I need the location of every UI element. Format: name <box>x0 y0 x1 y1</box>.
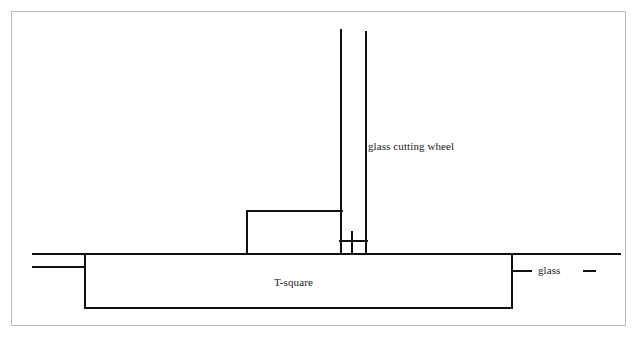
figure-border <box>12 12 626 326</box>
glass-cutting-diagram: glass cutting wheel T-square glass <box>0 0 637 342</box>
label-tsquare: T-square <box>274 276 313 289</box>
label-glass: glass <box>538 264 561 277</box>
label-glass-cutting-wheel: glass cutting wheel <box>368 140 454 153</box>
diagram-canvas <box>0 0 637 342</box>
